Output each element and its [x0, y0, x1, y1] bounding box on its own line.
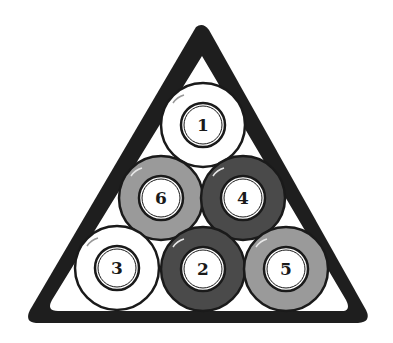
ball-5: 5 — [244, 227, 328, 311]
ball-number-label: 5 — [280, 259, 292, 279]
ball-number-label: 2 — [197, 259, 209, 279]
ball-number-label: 6 — [155, 188, 167, 208]
ball-number-label: 1 — [197, 115, 209, 135]
ball-number-label: 4 — [237, 188, 249, 208]
ball-2: 2 — [161, 227, 245, 311]
ball-3: 3 — [75, 226, 159, 310]
ball-1: 1 — [161, 83, 245, 167]
ball-number-label: 3 — [111, 258, 123, 278]
billiard-rack-diagram: 164325 — [0, 0, 393, 343]
